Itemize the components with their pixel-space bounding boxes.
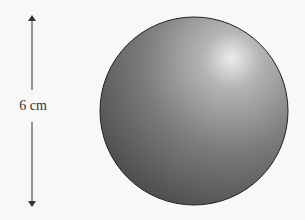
sphere — [100, 17, 288, 205]
dimension-label: 6 cm — [14, 98, 52, 114]
